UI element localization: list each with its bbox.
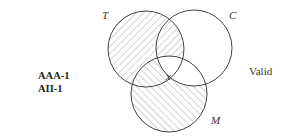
existence-mark-x: x xyxy=(165,70,171,82)
venn-diagram: T C M x xyxy=(0,0,288,138)
label-c: C xyxy=(229,9,237,21)
label-t: T xyxy=(102,9,109,21)
label-m: M xyxy=(210,114,221,126)
